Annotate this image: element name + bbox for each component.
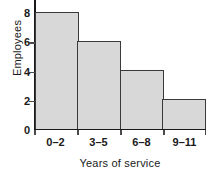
y-axis-tick-labels: 02468	[14, 0, 30, 177]
x-axis-tick-label: 9–11	[163, 136, 206, 148]
plot-area	[34, 13, 206, 130]
y-axis-tick-mark	[29, 101, 35, 103]
y-axis-tick-mark	[29, 72, 35, 74]
x-axis-tick-label: 0–2	[34, 136, 77, 148]
bar	[77, 41, 121, 129]
x-axis-title: Years of service	[34, 157, 206, 169]
x-axis-tick-labels: 0–23–56–89–11	[34, 136, 206, 148]
x-axis-tick-mark	[163, 130, 165, 135]
y-axis-tick-label: 6	[16, 37, 30, 47]
y-axis-tick-label: 8	[16, 8, 30, 18]
x-axis-tick-mark	[205, 130, 207, 135]
y-axis-tick-label: 0	[16, 125, 30, 135]
y-axis-tick-mark	[29, 42, 35, 44]
y-axis-tick-label: 2	[16, 96, 30, 106]
histogram-figure: Employees 02468 0–23–56–89–11 Years of s…	[0, 0, 215, 177]
x-axis-tick-label: 3–5	[77, 136, 120, 148]
bar	[120, 70, 164, 129]
bar	[35, 12, 79, 129]
x-axis-tick-marks	[34, 130, 206, 135]
bar	[162, 99, 206, 128]
x-axis-tick-mark	[120, 130, 122, 135]
x-axis-tick-mark	[34, 130, 36, 135]
bar-series	[35, 12, 206, 129]
x-axis-tick-label: 6–8	[120, 136, 163, 148]
y-axis-tick-label: 4	[16, 67, 30, 77]
x-axis-tick-mark	[77, 130, 79, 135]
